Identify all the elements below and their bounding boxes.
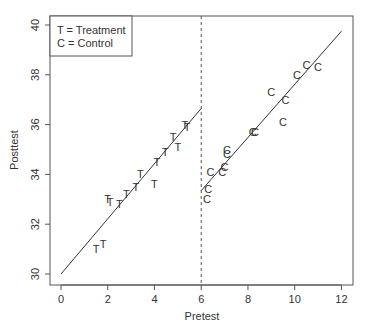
control-point-marker: C	[314, 61, 322, 73]
control-point-marker: C	[251, 126, 259, 138]
control-point-marker: C	[267, 86, 275, 98]
y-tick-label: 38	[29, 69, 41, 81]
y-tick-label: 30	[29, 268, 41, 280]
regression-discontinuity-chart: 024681012 303234363840 TTTTTTTTTTTTTTTCC…	[0, 0, 369, 330]
y-tick-label: 34	[29, 168, 41, 180]
treatment-point-marker: T	[162, 146, 169, 158]
y-axis: 303234363840	[29, 19, 50, 280]
x-axis-label: Pretest	[185, 310, 220, 322]
control-point-marker: C	[281, 94, 289, 106]
treatment-point-marker: T	[151, 178, 158, 190]
control-point-marker: C	[293, 69, 301, 81]
treatment-point-marker: T	[93, 243, 100, 255]
legend-box	[50, 16, 132, 56]
treatment-point-marker: T	[116, 198, 123, 210]
treatment-point-marker: T	[153, 156, 160, 168]
x-tick-label: 2	[105, 293, 111, 305]
x-tick-label: 4	[151, 293, 157, 305]
y-tick-label: 36	[29, 118, 41, 130]
legend-entry-treatment: T = Treatment	[57, 24, 126, 36]
x-tick-label: 12	[335, 293, 347, 305]
legend: T = Treatment C = Control	[50, 16, 132, 56]
x-tick-label: 10	[289, 293, 301, 305]
x-tick-label: 0	[58, 293, 64, 305]
control-point-marker: C	[279, 116, 287, 128]
legend-entry-control: C = Control	[57, 37, 113, 49]
treatment-point-marker: T	[174, 141, 181, 153]
treatment-fit-line	[61, 108, 201, 274]
y-tick-label: 40	[29, 19, 41, 31]
control-point-marker: C	[302, 59, 310, 71]
treatment-point-marker: T	[137, 168, 144, 180]
x-tick-label: 6	[198, 293, 204, 305]
y-axis-label: Posttest	[8, 130, 20, 170]
x-axis: 024681012	[58, 285, 348, 305]
treatment-point-marker: T	[184, 121, 191, 133]
y-tick-label: 32	[29, 218, 41, 230]
treatment-point-marker: T	[100, 238, 107, 250]
treatment-point-marker: T	[107, 196, 114, 208]
treatment-point-marker: T	[132, 181, 139, 193]
control-point-marker: C	[204, 183, 212, 195]
control-point-marker: C	[223, 144, 231, 156]
x-tick-label: 8	[245, 293, 251, 305]
control-point-marker: C	[207, 166, 215, 178]
treatment-point-marker: T	[123, 188, 130, 200]
data-points: TTTTTTTTTTTTTTTCCCCCCCCCCCCCCC	[93, 59, 322, 255]
control-point-marker: C	[221, 161, 229, 173]
